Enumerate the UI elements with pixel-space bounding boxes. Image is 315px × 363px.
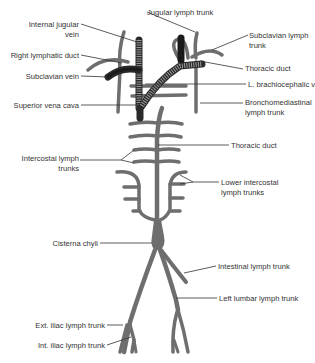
right-int-iliac-lymph-trunk <box>130 325 134 352</box>
right-int-iliac-branch <box>134 340 136 352</box>
label-subclavian-vein: Subclavian vein <box>26 72 79 81</box>
label-lower-intercostal-lymph-trunks-1: Lower intercostal <box>221 178 279 187</box>
lymphatic-system-diagram: Internal jugular vein Jugular lymph trun… <box>0 0 315 363</box>
label-right-lymphatic-duct: Right lymphatic duct <box>11 51 80 60</box>
label-intercostal-lymph-trunks-1: Intercostal lymph <box>22 154 79 163</box>
cisterna-chyli <box>151 220 164 250</box>
label-subclavian-lymph-trunk-2: trunk <box>249 41 266 50</box>
label-internal-jugular-vein-1: Internal jugular <box>29 20 80 29</box>
label-internal-jugular-vein-2: vein <box>65 30 79 39</box>
right-lumbar-lymph-trunk <box>124 250 155 352</box>
label-superior-vena-cava: Superior vena cava <box>14 101 80 110</box>
label-bronchomediastinal-lymph-trunk-1: Bronchomediastinal <box>245 98 312 107</box>
labels: Internal jugular vein Jugular lymph trun… <box>11 8 315 350</box>
vessel-structures <box>88 32 222 352</box>
label-cisterna-chyli: Cisterna chyli <box>52 239 98 248</box>
label-lower-intercostal-lymph-trunks-2: lymph trunks <box>221 188 264 197</box>
label-jugular-lymph-trunk: Jugular lymph trunk <box>147 8 213 17</box>
label-bronchomediastinal-lymph-trunk-2: lymph trunk <box>245 108 284 117</box>
label-int-iliac-lymph-trunk: Int. iliac lymph trunk <box>38 341 105 350</box>
label-thoracic-duct: Thoracic duct <box>231 141 277 150</box>
label-subclavian-lymph-trunk-1: Subclavian lymph <box>249 31 309 40</box>
label-l-brachiocephalic-v: L. brachiocephalic v. <box>248 80 315 89</box>
lower-intercostal-branches <box>117 172 186 220</box>
left-iliac-trunk-outer <box>178 310 188 352</box>
label-ext-iliac-lymph-trunk: Ext. iliac lymph trunk <box>35 321 105 330</box>
label-intercostal-lymph-trunks-2: trunks <box>58 164 79 173</box>
label-intestinal-lymph-trunk: Intestinal lymph trunk <box>218 262 290 271</box>
label-thoracic-duct-upper: Thoracic duct <box>245 64 291 73</box>
label-left-lumbar-lymph-trunk: Left lumbar lymph trunk <box>219 294 299 303</box>
